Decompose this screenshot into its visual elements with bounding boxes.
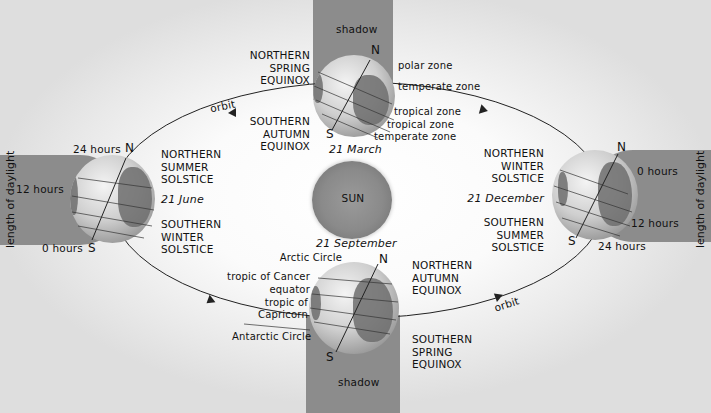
daylight-12h-right: 12 hours	[631, 217, 679, 230]
pole-n-top: N	[371, 44, 380, 57]
date-december: 21 December	[460, 193, 544, 206]
pole-s-right: S	[568, 235, 576, 248]
southern-spring-equinox-label: SOUTHERN SPRING EQUINOX	[412, 333, 472, 371]
equator-label: equator	[220, 284, 310, 297]
southern-summer-solstice-label: SOUTHERN SUMMER SOLSTICE	[460, 216, 544, 254]
northern-summer-solstice-label: NORTHERN SUMMER SOLSTICE	[161, 148, 221, 186]
pole-n-left: N	[125, 142, 134, 155]
date-march: 21 March	[329, 144, 382, 157]
zone-temperate-north: temperate zone	[398, 81, 480, 94]
pole-s-top: S	[326, 128, 334, 141]
zone-temperate-south: temperate zone	[374, 131, 456, 144]
zone-tropical-north: tropical zone	[394, 106, 461, 119]
date-june: 21 June	[161, 194, 204, 207]
pole-n-bottom: N	[379, 253, 388, 266]
shadow-label-top: shadow	[336, 23, 377, 36]
date-september: 21 September	[316, 238, 397, 251]
sun-label: SUN	[338, 192, 368, 205]
daylight-24h-right: 24 hours	[598, 240, 646, 253]
zone-polar: polar zone	[398, 60, 453, 73]
northern-autumn-equinox-label: NORTHERN AUTUMN EQUINOX	[412, 259, 472, 297]
seasons-diagram: SUN orbit orbit shadow N S NORTHERN SPRI…	[0, 0, 711, 413]
capricorn-label: Capricorn	[220, 309, 308, 322]
daylight-0h-right: 0 hours	[637, 165, 678, 178]
pole-n-right: N	[617, 141, 626, 154]
tropic-of-label: tropic of	[220, 297, 308, 310]
zone-tropical-south: tropical zone	[387, 119, 454, 132]
tropic-of-cancer-label: tropic of Cancer	[220, 271, 310, 284]
pole-s-bottom: S	[326, 351, 334, 364]
shadow-label-bottom: shadow	[338, 376, 379, 389]
daylight-12h-left: 12 hours	[16, 183, 64, 196]
antarctic-circle-label: Antarctic Circle	[232, 331, 311, 344]
daylight-24h-left: 24 hours	[73, 143, 121, 156]
arctic-circle-label: Arctic Circle	[240, 252, 342, 265]
southern-winter-solstice-label: SOUTHERN WINTER SOLSTICE	[161, 218, 221, 256]
southern-autumn-equinox-label: SOUTHERN AUTUMN EQUINOX	[224, 115, 310, 153]
pole-s-left: S	[88, 242, 96, 255]
daylight-axis-right: length of daylight	[694, 148, 707, 248]
northern-spring-equinox-label: NORTHERN SPRING EQUINOX	[224, 49, 310, 87]
daylight-0h-left: 0 hours	[42, 242, 83, 255]
northern-winter-solstice-label: NORTHERN WINTER SOLSTICE	[460, 147, 544, 185]
